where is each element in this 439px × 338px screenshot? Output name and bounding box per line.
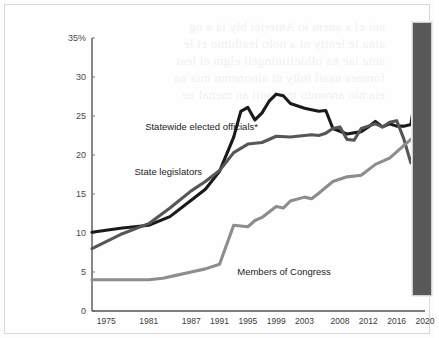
chart-series-lines bbox=[92, 38, 425, 280]
series-line bbox=[92, 128, 425, 280]
side-panel-block bbox=[412, 22, 432, 296]
y-tick-label: 5 bbox=[81, 267, 86, 277]
x-tick-label: 2008 bbox=[331, 316, 350, 326]
y-tick-label: 10 bbox=[76, 228, 86, 238]
x-tick-label: 1987 bbox=[182, 316, 201, 326]
x-tick-label: 1975 bbox=[97, 316, 116, 326]
x-tick-label: 1991 bbox=[210, 316, 229, 326]
series-label: State legislators bbox=[135, 166, 203, 177]
chart-svg: 05101520253035% 197519811987199119951999… bbox=[40, 16, 439, 338]
x-axis-group: 1975198119871991199519992003200820122016… bbox=[92, 311, 435, 326]
y-tick-label: 35% bbox=[68, 33, 86, 43]
x-tick-label: 2012 bbox=[359, 316, 378, 326]
x-tick-label: 1981 bbox=[139, 316, 158, 326]
y-tick-label: 25 bbox=[76, 111, 86, 121]
series-label: Statewide elected officials* bbox=[145, 121, 258, 132]
x-tick-label: 2016 bbox=[387, 316, 406, 326]
y-tick-label: 15 bbox=[76, 189, 86, 199]
series-line bbox=[92, 38, 425, 232]
series-line bbox=[92, 115, 425, 248]
y-tick-label: 0 bbox=[81, 306, 86, 316]
x-tick-label: 2020 bbox=[416, 316, 435, 326]
series-label: Members of Congress bbox=[237, 266, 331, 277]
line-chart: 05101520253035% 197519811987199119951999… bbox=[40, 16, 439, 338]
y-axis-group: 05101520253035% bbox=[68, 33, 95, 316]
x-tick-label: 1999 bbox=[267, 316, 286, 326]
x-tick-label: 1995 bbox=[238, 316, 257, 326]
y-tick-label: 30 bbox=[76, 72, 86, 82]
y-axis-tick-labels: 05101520253035% bbox=[68, 33, 95, 316]
y-tick-label: 20 bbox=[76, 150, 86, 160]
x-axis-tick-labels: 1975198119871991199519992003200820122016… bbox=[97, 316, 435, 326]
x-tick-label: 2003 bbox=[295, 316, 314, 326]
